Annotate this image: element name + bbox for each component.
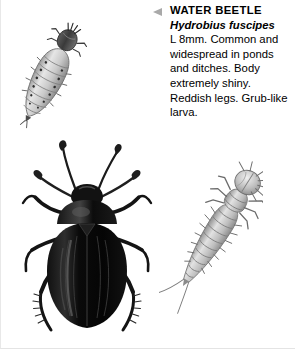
species-common-name: WATER BEETLE xyxy=(170,3,294,18)
adult-water-beetle-illustration xyxy=(13,140,161,340)
species-entry-text: WATER BEETLE Hydrobius fuscipes L 8mm. C… xyxy=(170,3,294,120)
species-description: L 8mm. Common and widespread in ponds an… xyxy=(170,32,294,120)
field-guide-page: WATER BEETLE Hydrobius fuscipes L 8mm. C… xyxy=(0,0,295,349)
elongate-larva-illustration xyxy=(159,160,263,322)
left-triangle-marker-icon xyxy=(153,8,162,16)
species-scientific-name: Hydrobius fuscipes xyxy=(170,18,294,33)
grub-like-larva-illustration xyxy=(5,22,91,134)
